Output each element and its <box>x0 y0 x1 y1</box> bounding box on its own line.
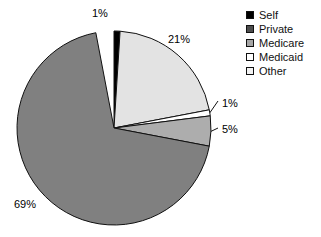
legend-swatch-icon-medicare <box>246 39 254 47</box>
legend-label: Medicare <box>259 37 304 49</box>
legend-swatch-icon-medicaid <box>246 53 254 61</box>
legend-item-medicaid[interactable]: Medicaid <box>246 50 320 64</box>
legend-item-self[interactable]: Self <box>246 8 320 22</box>
legend-label: Private <box>259 23 293 35</box>
legend-item-other[interactable]: Other <box>246 64 320 78</box>
pie-chart: 1% 21% 1% 5% 69% SelfPrivateMedicareMedi… <box>0 0 321 237</box>
legend-label: Self <box>259 9 278 21</box>
legend-label: Medicaid <box>259 51 303 63</box>
slice-label-private: 69% <box>14 198 36 210</box>
legend-item-private[interactable]: Private <box>246 22 320 36</box>
legend-label: Other <box>259 65 287 77</box>
slice-label-medicaid: 1% <box>222 97 238 109</box>
leader-line-other <box>211 128 218 131</box>
leader-line-medicaid <box>210 101 218 113</box>
legend-swatch-icon-self <box>246 11 254 19</box>
slice-label-medicare: 21% <box>168 33 190 45</box>
slice-label-other: 5% <box>222 123 238 135</box>
legend-swatch-icon-private <box>246 25 254 33</box>
chart-legend: SelfPrivateMedicareMedicaidOther <box>246 8 320 78</box>
slice-label-self: 1% <box>92 7 108 19</box>
legend-item-medicare[interactable]: Medicare <box>246 36 320 50</box>
legend-swatch-icon-other <box>246 67 254 75</box>
pie-slice-group <box>17 31 211 225</box>
